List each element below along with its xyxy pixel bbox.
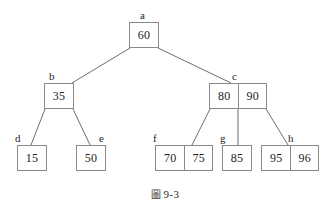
edge-c-to-h (266, 109, 288, 145)
key-cell-f-0: 70 (156, 146, 184, 170)
key-cell-a-0: 60 (130, 23, 158, 47)
key-cell-h-0: 95 (262, 146, 290, 170)
edge-b-to-e (73, 109, 90, 145)
key-cell-c-1: 90 (238, 84, 266, 108)
key-cell-f-1: 75 (184, 146, 212, 170)
tree-node-d[interactable]: 15 (17, 145, 47, 171)
key-cell-b-0: 35 (45, 84, 73, 108)
tree-node-h[interactable]: 9596 (261, 145, 319, 171)
key-cell-g-0: 85 (223, 146, 251, 170)
tree-node-a[interactable]: 60 (129, 22, 159, 48)
tree-node-c[interactable]: 8090 (209, 83, 267, 109)
key-cell-e-0: 50 (77, 146, 105, 170)
node-label-a: a (140, 10, 145, 21)
node-label-e: e (99, 133, 104, 144)
tree-node-b[interactable]: 35 (44, 83, 74, 109)
key-cell-h-1: 96 (290, 146, 318, 170)
caption-text: 9-3 (163, 188, 179, 200)
node-label-f: f (153, 133, 157, 144)
tree-node-g[interactable]: 85 (222, 145, 252, 171)
node-label-b: b (49, 71, 55, 82)
edge-a-to-b (72, 48, 130, 83)
node-label-h: h (288, 133, 294, 144)
edge-b-to-d (31, 109, 45, 145)
key-cell-c-0: 80 (210, 84, 238, 108)
node-label-c: c (232, 71, 237, 82)
tree-node-e[interactable]: 50 (76, 145, 106, 171)
edge-a-to-c (158, 48, 231, 83)
btree-figure: a60b35c8090d15e50f7075g85h9596 圖 9-3 (0, 0, 330, 209)
figure-caption: 圖 9-3 (0, 186, 330, 201)
key-cell-d-0: 15 (18, 146, 46, 170)
node-label-g: g (220, 133, 226, 144)
edge-c-to-f (192, 109, 210, 145)
tree-node-f[interactable]: 7075 (155, 145, 213, 171)
caption-glyph: 圖 (151, 189, 161, 200)
node-label-d: d (15, 133, 21, 144)
